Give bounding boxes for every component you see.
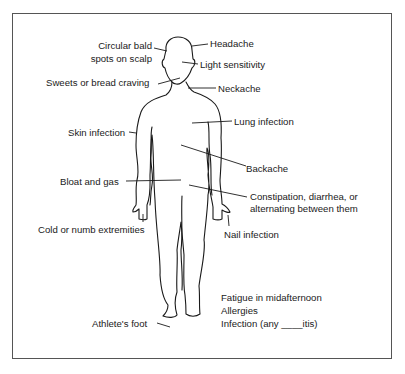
label-headache: Headache [210, 38, 254, 50]
general-symptom-infection: Infection (any ____itis) [221, 318, 318, 330]
head-outline [162, 37, 195, 84]
leader-constipation [189, 185, 247, 197]
leader-circular-bald [154, 48, 167, 51]
label-lung-infection: Lung infection [234, 116, 294, 128]
label-constipation-line1: Constipation, diarrhea, or [250, 191, 358, 203]
label-light-sensitivity: Light sensitivity [200, 59, 265, 71]
label-bloat-gas: Bloat and gas [60, 176, 119, 188]
general-symptom-allergies: Allergies [221, 305, 258, 317]
label-constipation-line2: alternating between them [250, 203, 358, 215]
leader-nail-infection [228, 215, 229, 226]
label-athletes-foot: Athlete's foot [92, 318, 147, 330]
label-skin-infection: Skin infection [68, 127, 125, 139]
label-nail-infection: Nail infection [224, 229, 279, 241]
leader-lung-infection [192, 121, 232, 123]
label-neckache: Neckache [218, 83, 261, 95]
label-backache: Backache [246, 163, 288, 175]
label-circular-bald-line1: Circular bald [88, 40, 152, 52]
leader-light-sensitivity [182, 62, 198, 64]
leg-divider [181, 196, 182, 290]
leader-bloat-gas [126, 180, 181, 181]
leader-skin-infection [129, 132, 136, 133]
label-sweets-craving: Sweets or bread craving [46, 77, 149, 89]
label-circular-bald-line2: spots on scalp [84, 53, 152, 65]
leader-headache [192, 44, 208, 46]
leader-athletes-foot [157, 323, 170, 327]
general-symptom-fatigue: Fatigue in midafternoon [221, 292, 322, 304]
label-cold-extremities: Cold or numb extremities [38, 224, 145, 236]
leader-backache [181, 145, 246, 166]
